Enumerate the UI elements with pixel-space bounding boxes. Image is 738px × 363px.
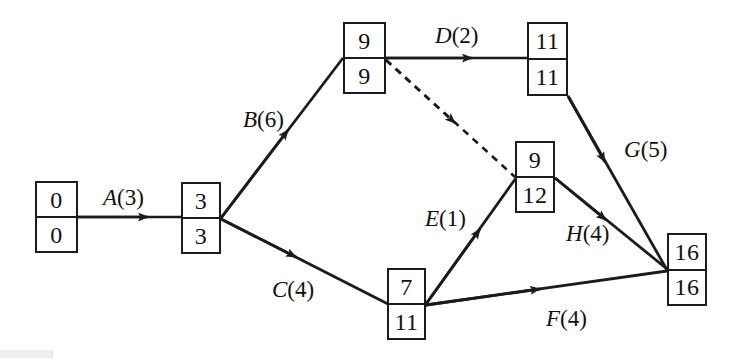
node-late-time: 16 [669,271,705,305]
node-late-time: 9 [345,59,384,92]
activity-duration: (3) [117,185,144,210]
edge-label-H: H(4) [566,222,609,245]
edge-label-G: G(5) [624,138,667,161]
activity-name: F [546,306,560,331]
activity-duration: (4) [287,277,314,302]
edge-E [426,178,516,304]
node-late-time: 12 [517,178,553,211]
node-early-time: 16 [669,235,705,271]
activity-name: D [435,23,452,48]
edge-label-F: F(4) [546,307,587,330]
activity-duration: (1) [439,206,466,231]
edge-B [221,58,343,218]
node-early-time: 7 [389,270,424,305]
event-node-n5: 9 12 [515,141,555,213]
edge-label-D: D(2) [435,24,478,47]
activity-duration: (2) [452,23,479,48]
node-late-time: 11 [529,60,566,94]
activity-name: H [566,221,583,246]
event-node-n1: 0 0 [35,181,78,253]
event-node-n7: 16 16 [667,233,707,306]
activity-name: A [103,185,117,210]
activity-name: C [272,277,287,302]
node-early-time: 9 [345,24,384,59]
activity-duration: (6) [257,107,284,132]
scan-artifact [0,350,53,358]
activity-name: G [624,137,641,162]
node-late-time: 0 [37,218,76,251]
edge-label-E: E(1) [425,207,466,230]
event-node-n3: 9 9 [343,22,386,94]
activity-duration: (4) [583,221,610,246]
activity-name: E [425,206,439,231]
edge-label-C: C(4) [272,278,314,301]
node-early-time: 0 [37,183,76,218]
edge-label-A: A(3) [103,186,144,209]
activity-name: B [243,107,257,132]
edge-dummy-dashed [386,60,515,177]
network-diagram-canvas: 0 0 3 3 9 9 11 11 9 12 7 11 16 16 A(3) B… [0,0,738,363]
event-node-n4: 11 11 [527,22,568,96]
edge-label-B: B(6) [243,108,284,131]
node-late-time: 3 [183,219,219,252]
edge-F [426,271,667,305]
activity-duration: (5) [641,137,668,162]
node-early-time: 3 [183,184,219,219]
activity-duration: (4) [560,306,587,331]
node-early-time: 11 [529,24,566,60]
node-late-time: 11 [389,305,424,338]
node-early-time: 9 [517,143,553,178]
event-node-n6: 7 11 [387,268,426,340]
event-node-n2: 3 3 [181,182,221,254]
